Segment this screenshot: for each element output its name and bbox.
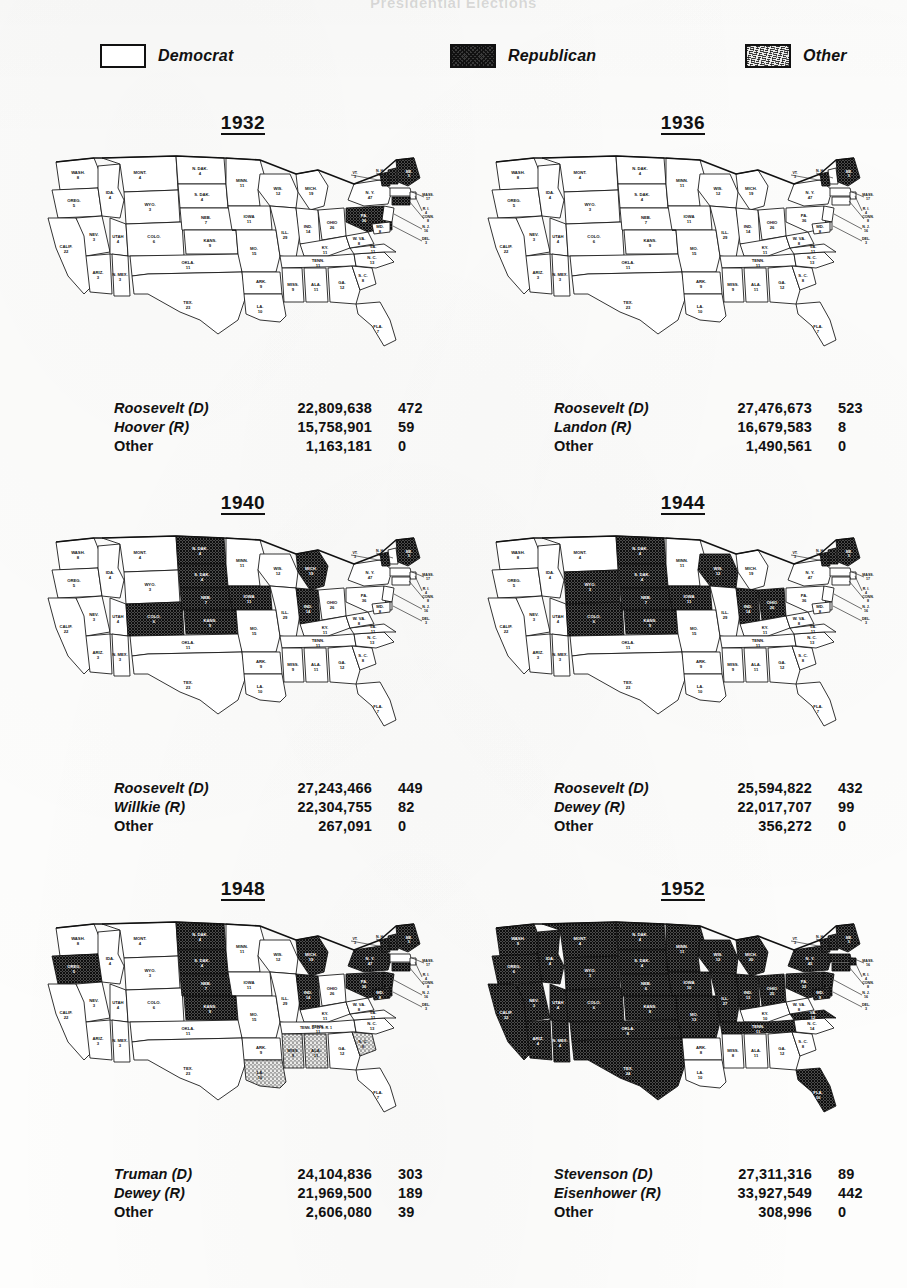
callout-line-nj xyxy=(834,214,862,229)
state-votes-ky: 11 xyxy=(323,250,328,255)
state-or xyxy=(52,568,102,598)
state-votes-mi: 19 xyxy=(309,191,314,196)
state-votes-vt: 3 xyxy=(354,555,356,559)
state-votes-ia: 11 xyxy=(247,219,252,224)
state-nj xyxy=(822,972,834,988)
state-votes-nc: 13 xyxy=(370,1026,375,1031)
state-votes-tx: 24 xyxy=(626,1071,631,1076)
document-page: Presidential Elections Democrat Republic… xyxy=(0,0,907,1288)
state-votes-ny: 47 xyxy=(368,575,373,580)
state-votes-ny: 47 xyxy=(368,195,373,200)
state-votes-tn: 11 xyxy=(316,643,321,648)
popular-vote: 22,304,755 xyxy=(254,797,398,816)
state-votes-nj: 16 xyxy=(864,609,868,613)
state-votes-pa: 36 xyxy=(362,984,367,989)
state-votes-ct: 8 xyxy=(427,599,429,603)
state-votes-wi: 12 xyxy=(276,191,281,196)
state-or xyxy=(52,954,102,984)
state-votes-wi: 12 xyxy=(716,957,721,962)
state-votes-il: 29 xyxy=(283,615,288,620)
callout-line-nj xyxy=(394,594,422,609)
popular-vote: 22,809,638 xyxy=(254,398,398,417)
state-votes-mi: 19 xyxy=(309,571,314,576)
state-votes-nh: 4 xyxy=(819,553,821,557)
state-votes-al: 11 xyxy=(754,287,759,292)
state-votes-mn: 11 xyxy=(240,563,245,568)
state-votes-pa: 36 xyxy=(802,218,807,223)
state-votes-in: 14 xyxy=(306,995,311,1000)
callout-line-de xyxy=(833,606,862,621)
electoral-vote: 0 xyxy=(838,436,898,455)
state-votes-ga: 12 xyxy=(780,1051,785,1056)
state-nj xyxy=(382,206,394,222)
state-ct xyxy=(392,197,410,205)
state-votes-nj: 16 xyxy=(864,995,868,999)
electoral-vote: 523 xyxy=(838,398,898,417)
popular-vote: 1,490,561 xyxy=(694,436,838,455)
state-nh xyxy=(388,168,398,184)
state-votes-ma: 16 xyxy=(866,963,870,967)
popular-vote: 1,163,181 xyxy=(254,436,398,455)
state-votes-ma: 17 xyxy=(866,197,870,201)
state-or xyxy=(52,188,102,218)
state-votes-pa: 36 xyxy=(362,598,367,603)
table-row: Eisenhower (R)33,927,549442 xyxy=(554,1183,898,1202)
year-heading-1952: 1952 xyxy=(468,878,898,900)
state-votes-va: 11 xyxy=(371,249,376,254)
state-votes-pa: 32 xyxy=(802,984,807,989)
map-legend: Democrat Republican Other xyxy=(0,44,907,74)
state-votes-la: 10 xyxy=(258,309,263,314)
table-row: Other2,606,08039 xyxy=(114,1202,458,1221)
state-votes-la: 10 xyxy=(698,309,703,314)
table-row: Dewey (R)22,017,70799 xyxy=(554,797,898,816)
state-votes-al: 11 xyxy=(754,667,759,672)
state-votes-mo: 13 xyxy=(692,1017,697,1022)
tennessee-split-annotation: TENN. D. 11 S. R. 1 xyxy=(300,1026,332,1030)
state-votes-mi: 19 xyxy=(309,957,314,962)
candidate-name: Roosevelt (D) xyxy=(114,778,254,797)
table-row: Other1,490,5610 xyxy=(554,436,898,455)
state-wy xyxy=(564,570,620,604)
election-panel-1936: 1936WASH.8OREG.5CALIF.22IDA.4NEV.3MONT.4… xyxy=(468,112,898,484)
state-la xyxy=(244,674,286,702)
electoral-vote: 0 xyxy=(838,816,898,835)
callout-line-de xyxy=(393,992,422,1007)
state-nh xyxy=(828,168,838,184)
callout-line-nj xyxy=(394,980,422,995)
state-votes-mn: 11 xyxy=(240,949,245,954)
state-votes-in: 14 xyxy=(746,609,751,614)
state-votes-mo: 15 xyxy=(252,631,257,636)
candidate-name: Roosevelt (D) xyxy=(114,398,254,417)
year-heading-1944: 1944 xyxy=(468,492,898,514)
state-votes-ok: 11 xyxy=(186,1031,191,1036)
legend-swatch-democrat xyxy=(100,44,146,68)
table-row: Willkie (R)22,304,75582 xyxy=(114,797,458,816)
callout-line-de xyxy=(393,606,422,621)
candidate-name: Other xyxy=(114,816,254,835)
state-votes-ok: 11 xyxy=(626,265,631,270)
state-votes-ga: 12 xyxy=(340,665,345,670)
state-votes-ma: 17 xyxy=(426,963,430,967)
popular-vote: 15,758,901 xyxy=(254,417,398,436)
table-row: Other308,9960 xyxy=(554,1202,898,1221)
table-row: Dewey (R)21,969,500189 xyxy=(114,1183,458,1202)
state-votes-mo: 15 xyxy=(252,251,257,256)
table-row: Other1,163,1810 xyxy=(114,436,458,455)
electoral-vote: 472 xyxy=(398,398,458,417)
state-votes-al: 11 xyxy=(754,1053,759,1058)
callout-line-ri xyxy=(415,962,422,977)
table-row: Stevenson (D)27,311,31689 xyxy=(554,1164,898,1183)
state-votes-nc: 13 xyxy=(370,640,375,645)
state-votes-ca: 22 xyxy=(504,249,509,254)
state-votes-ky: 11 xyxy=(763,250,768,255)
state-votes-wi: 12 xyxy=(276,957,281,962)
state-votes-ky: 11 xyxy=(763,630,768,635)
candidate-name: Landon (R) xyxy=(554,417,694,436)
state-nj xyxy=(382,972,394,988)
table-row: Roosevelt (D)27,476,673523 xyxy=(554,398,898,417)
state-ma xyxy=(830,954,852,962)
state-votes-tx: 23 xyxy=(626,305,631,310)
state-votes-de: 3 xyxy=(865,241,867,245)
state-votes-al: 11 xyxy=(314,667,319,672)
results-table-1948: Truman (D)24,104,836303Dewey (R)21,969,5… xyxy=(114,1164,458,1221)
